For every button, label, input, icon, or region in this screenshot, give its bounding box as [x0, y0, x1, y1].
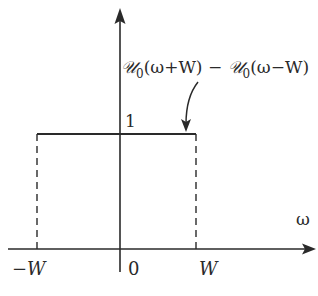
rect-pulse-diagram: 𝒰0(ω+W) − 𝒰0(ω−W) 1 ω −W 0 W: [0, 0, 318, 296]
height-label: 1: [125, 111, 136, 131]
tick-label-w: W: [199, 258, 219, 279]
function-label: 𝒰0(ω+W) − 𝒰0(ω−W): [121, 57, 309, 81]
x-axis: [8, 244, 316, 255]
annotation-arrow-icon: [186, 82, 198, 124]
x-axis-label: ω: [296, 209, 310, 229]
tick-label-origin: 0: [128, 258, 139, 279]
y-axis: [115, 8, 126, 272]
tick-label-neg-w: −W: [12, 258, 47, 279]
